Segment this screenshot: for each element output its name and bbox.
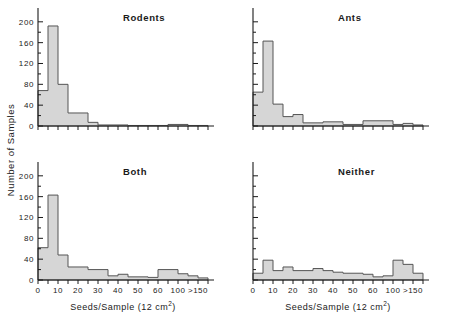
y-tick-label: 0 (8, 122, 34, 131)
panel-title-neither: Neither (338, 166, 375, 177)
y-tick-label: 80 (8, 80, 34, 89)
y-axis-title: Number of Samples (5, 104, 16, 196)
y-tick-label: 40 (8, 255, 34, 264)
x-tick-label: 30 (93, 286, 103, 295)
histogram-bars (38, 195, 208, 280)
x-tick-label: 10 (53, 286, 63, 295)
x-tick-label: >150 (403, 286, 423, 295)
x-tick-label: 40 (113, 286, 123, 295)
x-tick-label: 20 (288, 286, 298, 295)
x-tick-label: 30 (308, 286, 318, 295)
x-tick-label: 60 (368, 286, 378, 295)
x-tick-label: 20 (73, 286, 83, 295)
y-tick-label: 120 (8, 59, 34, 68)
x-tick-label: 100 (386, 286, 401, 295)
y-tick-label: 0 (8, 276, 34, 285)
histogram-bars (253, 260, 423, 280)
x-tick-label: 10 (268, 286, 278, 295)
y-tick-label: 160 (8, 192, 34, 201)
x-tick-label: 50 (133, 286, 143, 295)
panel-title-ants: Ants (338, 12, 362, 23)
y-tick-label: 80 (8, 234, 34, 243)
histogram-bars (38, 26, 208, 126)
y-tick-label: 40 (8, 101, 34, 110)
y-tick-label: 200 (8, 171, 34, 180)
x-tick-label: 50 (348, 286, 358, 295)
x-axis-title: Seeds/Sample (12 cm2) (285, 300, 391, 312)
histogram-both (38, 168, 232, 290)
panel-title-rodents: Rodents (123, 12, 165, 23)
panel-title-both: Both (123, 166, 147, 177)
histogram-bars (253, 41, 423, 126)
histogram-rodents (38, 14, 232, 136)
x-tick-label: 60 (153, 286, 163, 295)
y-tick-label: 200 (8, 17, 34, 26)
x-tick-label: >150 (188, 286, 208, 295)
x-tick-label: 40 (328, 286, 338, 295)
x-tick-label: 100 (171, 286, 186, 295)
figure-root: Number of Samples Rodents04080120160200 … (0, 0, 458, 326)
histogram-ants (253, 14, 447, 136)
x-tick-label: 0 (251, 286, 256, 295)
y-tick-label: 120 (8, 213, 34, 222)
x-tick-label: 0 (36, 286, 41, 295)
x-axis-title: Seeds/Sample (12 cm2) (70, 300, 176, 312)
y-tick-label: 160 (8, 38, 34, 47)
histogram-neither (253, 168, 447, 290)
